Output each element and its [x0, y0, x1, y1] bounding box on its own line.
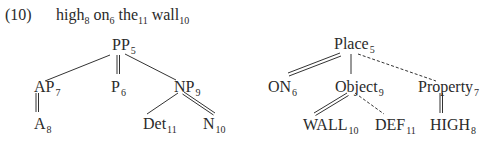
edge-pp-ap [45, 55, 110, 81]
node-def: DEF11 [375, 117, 416, 139]
edge-place-on-b [289, 56, 341, 76]
node-wall: WALL10 [303, 117, 358, 139]
node-on: ON6 [268, 79, 297, 101]
node-pp: PP5 [112, 37, 136, 59]
node-high: HIGH8 [430, 117, 476, 139]
node-det: Det11 [143, 116, 177, 138]
tree-edges [0, 0, 492, 141]
node-place: Place5 [334, 36, 375, 58]
node-property: Property7 [418, 79, 479, 101]
edge-place-on-a [288, 53, 340, 73]
node-ap: AP7 [34, 79, 60, 101]
node-n: N10 [203, 116, 226, 138]
node-a: A8 [34, 116, 52, 138]
node-object: Object9 [335, 79, 384, 101]
node-np: NP9 [174, 79, 200, 101]
edge-place-property [358, 54, 436, 81]
node-p: P6 [111, 79, 126, 101]
